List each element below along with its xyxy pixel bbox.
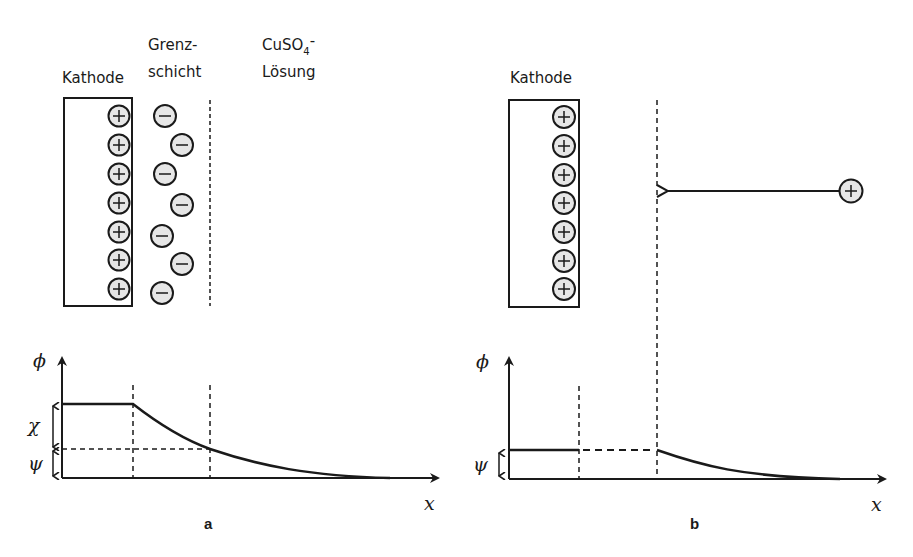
minus-ion-icon	[154, 163, 176, 185]
potential-curve-b	[657, 450, 840, 479]
potential-curve-a	[62, 404, 390, 478]
phi-label-b: ϕ	[476, 350, 489, 372]
chi-label: χ	[26, 414, 41, 436]
kathode-label: Kathode	[62, 69, 124, 87]
plus-ion-icon	[109, 250, 130, 271]
x-label-a: x	[424, 492, 435, 514]
panel-b: Kathode ϕ x	[473, 69, 885, 532]
plus-ion-icon	[109, 222, 130, 243]
minus-ion-icon	[171, 253, 193, 275]
grenzschicht-label-line1: Grenz-	[148, 36, 197, 54]
plus-ion-icon	[109, 106, 130, 127]
x-label-b: x	[871, 493, 882, 515]
grenzschicht-label-line2: schicht	[148, 63, 201, 81]
minus-ion-icon	[151, 282, 173, 304]
psi-label-b: ψ	[473, 453, 489, 475]
panel-label-a: a	[204, 515, 213, 532]
panel-label-b: b	[690, 515, 699, 532]
plus-ion-icon	[109, 164, 130, 185]
approaching-plus-ion-icon	[840, 180, 863, 203]
kathode-label-b: Kathode	[510, 69, 572, 87]
plus-ion-icon	[553, 192, 575, 214]
cathode-ions-a	[109, 106, 130, 300]
cathode-ions-b	[553, 106, 575, 300]
plus-ion-icon	[553, 135, 575, 157]
minus-ion-icon	[171, 134, 193, 156]
plus-ion-icon	[109, 135, 130, 156]
panel-a: Kathode Grenz- schicht CuSO4- Lösung	[26, 32, 438, 532]
psi-label-a: ψ	[28, 452, 44, 474]
minus-ion-icon	[154, 105, 176, 127]
minus-ion-icon	[171, 194, 193, 216]
cuso4-label-line2: Lösung	[262, 63, 316, 81]
boundary-ions-a	[151, 105, 193, 304]
plus-ion-icon	[553, 106, 575, 128]
graph-a: ϕ x χ ψ	[26, 349, 438, 514]
electrochemistry-diagram: Kathode Grenz- schicht CuSO4- Lösung	[0, 0, 913, 557]
plus-ion-icon	[109, 279, 130, 300]
plus-ion-icon	[109, 193, 130, 214]
phi-label-a: ϕ	[33, 349, 46, 371]
plus-ion-icon	[553, 250, 575, 272]
minus-ion-icon	[151, 225, 173, 247]
plus-ion-icon	[553, 221, 575, 243]
plus-ion-icon	[553, 164, 575, 186]
plus-ion-icon	[553, 278, 575, 300]
cuso4-label-line1: CuSO4-	[262, 32, 315, 57]
graph-b: ϕ x ψ	[473, 350, 885, 515]
